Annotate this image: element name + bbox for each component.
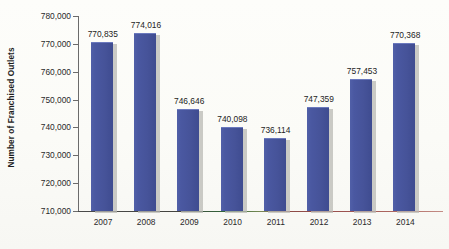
- bar-value-label: 774,016: [131, 20, 161, 30]
- y-axis-tick-label: 710,000: [41, 206, 71, 216]
- y-axis-tick-label: 720,000: [41, 178, 71, 188]
- y-axis-tick: [73, 44, 78, 45]
- plot-area: 710,000720,000730,000740,000750,000760,0…: [78, 16, 436, 212]
- bar-value-label: 770,368: [390, 30, 420, 40]
- y-axis-tick-label: 730,000: [41, 150, 71, 160]
- bar[interactable]: 757,453: [350, 79, 376, 211]
- bar-rect[interactable]: [350, 79, 372, 211]
- y-axis-tick-label: 750,000: [41, 95, 71, 105]
- bar-value-label: 746,646: [174, 96, 204, 106]
- bar-rect[interactable]: [221, 127, 243, 211]
- y-axis-tick-label: 770,000: [41, 39, 71, 49]
- y-axis-tick: [73, 127, 78, 128]
- bar[interactable]: 770,835: [91, 42, 117, 211]
- bar-value-label: 747,359: [304, 94, 334, 104]
- bar[interactable]: 747,359: [307, 107, 333, 211]
- bar-rect[interactable]: [177, 109, 199, 211]
- x-axis-tick-label: 2009: [180, 217, 199, 227]
- bar[interactable]: 746,646: [177, 109, 203, 211]
- y-axis-tick: [73, 72, 78, 73]
- y-axis-title-label: Number of Franchised Outlets: [7, 47, 16, 167]
- y-axis-tick-label: 760,000: [41, 67, 71, 77]
- bar[interactable]: 740,098: [221, 127, 247, 211]
- y-axis-line: [78, 16, 79, 212]
- x-axis-tick-label: 2013: [353, 217, 372, 227]
- bar-rect[interactable]: [264, 138, 286, 211]
- x-axis-tick-label: 2010: [223, 217, 242, 227]
- bar-chart: Number of Franchised Outlets 710,000720,…: [0, 0, 449, 249]
- y-axis-tick-label: 740,000: [41, 122, 71, 132]
- y-axis-tick-label: 780,000: [41, 11, 71, 21]
- x-axis-tick-label: 2008: [137, 217, 156, 227]
- x-axis-tick-label: 2011: [267, 217, 285, 227]
- y-axis-title: Number of Franchised Outlets: [0, 0, 22, 215]
- y-axis-tick: [73, 16, 78, 17]
- x-axis-tick-label: 2012: [310, 217, 329, 227]
- x-axis-line: [78, 211, 443, 212]
- bar-value-label: 757,453: [347, 66, 377, 76]
- bar-rect[interactable]: [307, 107, 329, 211]
- y-axis-tick: [73, 211, 78, 212]
- bar-rect[interactable]: [134, 33, 156, 211]
- bar[interactable]: 774,016: [134, 33, 160, 211]
- y-axis-tick: [73, 100, 78, 101]
- bar-value-label: 770,835: [88, 29, 118, 39]
- y-axis-tick: [73, 155, 78, 156]
- x-axis-tick-label: 2007: [94, 217, 113, 227]
- bar[interactable]: 770,368: [393, 43, 419, 211]
- bar[interactable]: 736,114: [264, 138, 290, 211]
- bar-rect[interactable]: [91, 42, 113, 211]
- y-axis-tick: [73, 183, 78, 184]
- bar-rect[interactable]: [393, 43, 415, 211]
- x-axis-tick-label: 2014: [396, 217, 415, 227]
- bar-value-label: 736,114: [261, 125, 291, 135]
- bar-value-label: 740,098: [217, 114, 247, 124]
